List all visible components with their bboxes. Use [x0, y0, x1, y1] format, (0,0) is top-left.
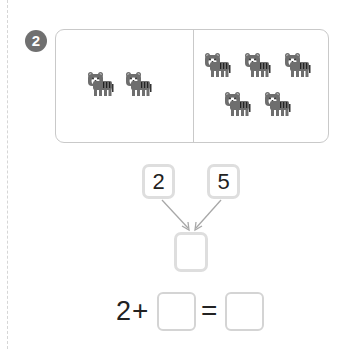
card-divider — [193, 30, 194, 142]
equation-first-term: 2 — [116, 298, 131, 325]
page-margin-dashed-line — [7, 0, 8, 349]
plus-sign: + — [132, 297, 148, 325]
tiger-icon — [224, 91, 252, 117]
tiger-icon — [204, 52, 232, 78]
tiger-icon — [125, 71, 153, 97]
bond-whole-answer-box[interactable] — [174, 232, 208, 272]
bond-right-part-box: 5 — [207, 164, 240, 199]
tiger-icon — [87, 71, 115, 97]
tiger-icon — [284, 52, 312, 78]
equation-addend-answer-box[interactable] — [157, 292, 196, 331]
tiger-icon — [264, 91, 292, 117]
tiger-icon — [244, 52, 272, 78]
bond-left-part-box: 2 — [142, 164, 175, 199]
equals-sign: = — [201, 297, 217, 325]
equation-result-answer-box[interactable] — [225, 292, 264, 331]
problem-number-badge: 2 — [25, 30, 47, 52]
